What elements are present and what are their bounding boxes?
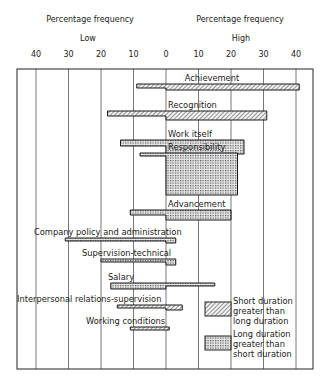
legend-label-long-3: short duration: [233, 349, 292, 359]
x-tick-low-0: 0: [163, 50, 168, 59]
category-label: Working conditions: [86, 316, 165, 326]
bar-row: Achievement: [137, 73, 300, 90]
category-label: Advancement: [168, 199, 226, 209]
category-label: Recognition: [168, 100, 217, 110]
x-tick-high-10: 10: [193, 50, 203, 59]
right-axis-subtitle: High: [232, 34, 250, 43]
legend-label-long-1: Long duration: [233, 329, 291, 339]
bar: [108, 111, 267, 120]
left-axis-title: Percentage frequency: [46, 15, 134, 24]
category-label: Responsibility: [168, 142, 225, 152]
x-tick-low-30: 30: [63, 50, 73, 59]
bar: [140, 153, 238, 195]
x-tick-low-20: 20: [96, 50, 106, 59]
legend-label-long-2: greater than: [233, 339, 285, 349]
legend-swatch-short: [205, 302, 231, 316]
bar-row: Recognition: [108, 100, 267, 120]
category-label: Achievement: [185, 73, 240, 83]
legend-label-short-3: long duration: [233, 316, 288, 326]
chart: Percentage frequency Percentage frequenc…: [0, 0, 328, 382]
legend-label-short-2: greater than: [233, 306, 285, 316]
legend-label-short-1: Short duration: [233, 296, 293, 306]
bars: AchievementRecognitionWork itselfRespons…: [17, 73, 299, 330]
category-label: Interpersonal relations-supervision: [17, 294, 161, 304]
bar: [111, 283, 215, 289]
bar: [130, 210, 231, 220]
category-label: Company policy and administration: [34, 227, 182, 237]
x-axis-ticks: 40302010010203040: [31, 50, 301, 59]
bar: [130, 327, 169, 330]
right-axis-title: Percentage frequency: [196, 15, 284, 24]
bar-row: Working conditions: [86, 316, 169, 330]
left-axis-subtitle: Low: [80, 34, 96, 43]
bar-row: Responsibility: [140, 142, 238, 195]
bar: [117, 305, 182, 310]
category-label: Supervision-technical: [82, 248, 171, 258]
x-tick-high-20: 20: [226, 50, 236, 59]
x-tick-low-40: 40: [31, 50, 41, 59]
bar-row: Advancement: [130, 199, 231, 220]
category-label: Salary: [108, 272, 134, 282]
x-tick-high-40: 40: [291, 50, 301, 59]
bar-row: Company policy and administration: [34, 227, 182, 243]
legend-swatch-long: [205, 336, 231, 350]
bar: [65, 238, 176, 243]
bar-row: Supervision-technical: [82, 248, 176, 265]
bar-row: Interpersonal relations-supervision: [17, 294, 182, 310]
category-label: Work itself: [168, 129, 213, 139]
x-tick-low-10: 10: [128, 50, 138, 59]
bar: [101, 259, 176, 265]
legend: Short duration greater than long duratio…: [205, 296, 293, 359]
x-tick-high-30: 30: [258, 50, 268, 59]
bar: [137, 84, 300, 90]
